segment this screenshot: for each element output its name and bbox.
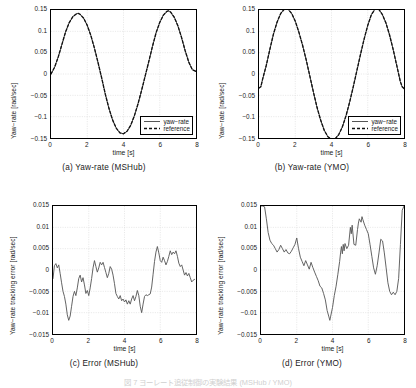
- x-tick-label: 8: [398, 141, 412, 148]
- x-tick-label: 4: [325, 141, 339, 148]
- solid-line-icon: [143, 118, 161, 125]
- y-tick-label: 0: [13, 71, 47, 77]
- legend-entry-reference: reference: [351, 125, 398, 132]
- x-tick-label: 8: [398, 337, 412, 344]
- x-tick-label: 8: [190, 337, 204, 344]
- panel-c-gridlines: [53, 206, 196, 334]
- panel-a-axes: yaw−rate reference: [50, 9, 197, 139]
- figure-root: Yaw−rate [rad/sec] yaw−rate reference −0…: [0, 0, 416, 388]
- legend-entry-reference: reference: [143, 125, 190, 132]
- panel-c-subcaption: (c) Error (MSHub): [0, 359, 208, 369]
- panel-d-subcaption: (d) Error (YMO): [208, 359, 416, 369]
- y-tick-label: −0.05: [13, 93, 47, 99]
- y-tick-label: −0.15: [221, 136, 255, 142]
- y-tick-label: 0.1: [13, 28, 47, 34]
- panel-b-legend: yaw−rate reference: [348, 116, 401, 136]
- y-tick-label: 0.015: [223, 202, 257, 208]
- panel-a-yaw-rate-mshub: Yaw−rate [rad/sec] yaw−rate reference −0…: [0, 0, 208, 194]
- x-tick-label: 0: [253, 337, 267, 344]
- legend-label-yaw-rate: yaw−rate: [371, 118, 397, 125]
- dashed-line-icon: [143, 125, 161, 132]
- dashed-line-icon: [351, 125, 369, 132]
- figure-caption: 図 7 ヨーレート追従制御の実験結果 (MSHub / YMO): [0, 378, 416, 388]
- y-tick-label: −0.15: [13, 136, 47, 142]
- legend-label-reference: reference: [371, 125, 398, 132]
- y-tick-label: −0.05: [221, 93, 255, 99]
- x-tick-label: 6: [362, 337, 376, 344]
- x-tick-label: 4: [117, 141, 131, 148]
- panel-a-legend: yaw−rate reference: [140, 116, 193, 136]
- legend-label-reference: reference: [163, 125, 190, 132]
- y-tick-label: −0.015: [223, 332, 257, 338]
- legend-label-yaw-rate: yaw−rate: [163, 118, 189, 125]
- x-tick-label: 0: [251, 141, 265, 148]
- x-tick-label: 2: [80, 141, 94, 148]
- y-tick-label: 0.15: [221, 6, 255, 12]
- y-tick-label: 0.015: [15, 202, 49, 208]
- legend-entry-yaw-rate: yaw−rate: [143, 118, 190, 125]
- panel-c-error-mshub: Yaw−rate tracking error [rad/sec] −0.015…: [0, 194, 208, 388]
- panel-d-plot-svg: [261, 206, 404, 334]
- x-tick-label: 6: [361, 141, 375, 148]
- panel-d-x-axis-label: time [s]: [260, 345, 405, 353]
- panel-b-yaw-rate-ymo: Yaw−rate [rad/sec] yaw−rate reference −0…: [208, 0, 416, 194]
- panel-c-x-axis-label: time [s]: [52, 345, 197, 353]
- y-tick-label: −0.015: [15, 332, 49, 338]
- panel-c-plot-svg: [53, 206, 196, 334]
- solid-line-icon: [351, 118, 369, 125]
- x-tick-label: 8: [190, 141, 204, 148]
- legend-entry-yaw-rate: yaw−rate: [351, 118, 398, 125]
- panel-d-error-ymo: Yaw−rate tracking error [rad/sec] −0.015…: [208, 194, 416, 388]
- y-tick-label: 0.05: [13, 49, 47, 55]
- y-tick-label: 0.15: [13, 6, 47, 12]
- y-tick-label: −0.01: [15, 310, 49, 316]
- panel-a-x-axis-label: time [s]: [50, 149, 197, 157]
- x-tick-label: 0: [43, 141, 57, 148]
- y-tick-label: −0.005: [223, 289, 257, 295]
- panel-b-y-axis-label: Yaw−rate [rad/sec]: [218, 83, 225, 139]
- panel-d-gridlines: [261, 206, 404, 334]
- y-tick-label: 0: [15, 267, 49, 273]
- x-tick-label: 4: [118, 337, 132, 344]
- y-tick-label: 0: [223, 267, 257, 273]
- panel-b-x-axis-label: time [s]: [258, 149, 405, 157]
- y-tick-label: 0.01: [15, 224, 49, 230]
- x-tick-label: 4: [326, 337, 340, 344]
- y-tick-label: 0: [221, 71, 255, 77]
- y-tick-label: 0.005: [223, 245, 257, 251]
- y-tick-label: 0.01: [223, 224, 257, 230]
- x-tick-label: 2: [288, 141, 302, 148]
- x-tick-label: 2: [289, 337, 303, 344]
- y-tick-label: 0.005: [15, 245, 49, 251]
- y-tick-label: 0.1: [221, 28, 255, 34]
- panel-b-subcaption: (b) Yaw-rate (YMO): [208, 163, 416, 173]
- x-tick-label: 0: [45, 337, 59, 344]
- panel-b-axes: yaw−rate reference: [258, 9, 405, 139]
- y-tick-label: 0.05: [221, 49, 255, 55]
- x-tick-label: 6: [154, 337, 168, 344]
- panel-a-y-axis-label: Yaw−rate [rad/sec]: [10, 83, 17, 139]
- y-tick-label: −0.005: [15, 289, 49, 295]
- y-tick-label: −0.1: [13, 114, 47, 120]
- x-tick-label: 2: [81, 337, 95, 344]
- y-tick-label: −0.1: [221, 114, 255, 120]
- y-tick-label: −0.01: [223, 310, 257, 316]
- panel-c-axes: [52, 205, 197, 335]
- panel-d-axes: [260, 205, 405, 335]
- panel-a-subcaption: (a) Yaw-rate (MSHub): [0, 163, 208, 173]
- x-tick-label: 6: [153, 141, 167, 148]
- panel-c-series: [53, 247, 195, 321]
